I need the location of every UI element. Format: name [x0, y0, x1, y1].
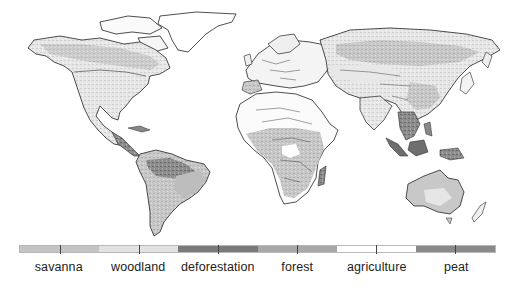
legend-label-savanna: savanna — [19, 260, 99, 274]
arctic-islands — [100, 16, 162, 34]
legend-swatch-peat — [416, 246, 495, 252]
legend-label-peat: peat — [417, 260, 497, 274]
legend-swatch-woodland — [99, 246, 178, 252]
iberia — [242, 80, 262, 94]
madagascar — [318, 166, 326, 186]
borneo — [408, 140, 428, 156]
new-zealand — [472, 202, 486, 222]
uk — [244, 54, 252, 66]
caribbean — [128, 126, 150, 132]
philippines — [424, 122, 432, 136]
world-map — [0, 0, 510, 240]
legend-labels: savanna woodland deforestation forest ag… — [19, 260, 496, 274]
legend-swatch-agriculture — [337, 246, 416, 252]
sumatra — [386, 138, 408, 156]
tasmania — [446, 218, 452, 224]
greenland — [158, 12, 236, 52]
legend-label-forest: forest — [258, 260, 338, 274]
legend-swatch-forest — [258, 246, 337, 252]
map-legend: savanna woodland deforestation forest ag… — [19, 245, 496, 285]
legend-color-bar — [19, 245, 496, 253]
legend-label-agriculture: agriculture — [337, 260, 417, 274]
legend-label-woodland: woodland — [99, 260, 179, 274]
new-guinea — [440, 148, 464, 160]
legend-swatch-savanna — [20, 246, 99, 252]
india — [360, 96, 392, 130]
japan — [460, 72, 474, 94]
legend-swatch-deforestation — [178, 246, 257, 252]
legend-label-deforestation: deforestation — [178, 260, 258, 274]
